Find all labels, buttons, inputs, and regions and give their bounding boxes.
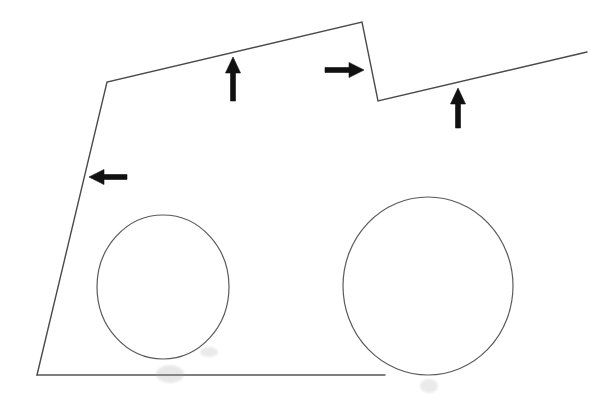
- arrow-up-right-slope: [451, 88, 466, 128]
- arrow-up-left-roof: [226, 57, 241, 101]
- left-wheel-circle: [97, 215, 229, 359]
- arrow-right-notch: [325, 63, 364, 78]
- smudge-left-wheel-bottom-right: [200, 347, 218, 357]
- sketch-canvas: [0, 0, 614, 400]
- body-profile-polyline: [37, 22, 587, 375]
- right-wheel-circle: [343, 197, 513, 375]
- load-arrow-layer: [89, 57, 466, 185]
- smudge-under-right-wheel: [420, 379, 438, 393]
- smudge-under-left-wheel: [156, 365, 184, 383]
- arrow-left-front-face: [89, 170, 127, 185]
- sketch-drawing: [0, 0, 614, 400]
- geometry-layer: [37, 22, 587, 375]
- pencil-smudge-layer: [156, 347, 438, 393]
